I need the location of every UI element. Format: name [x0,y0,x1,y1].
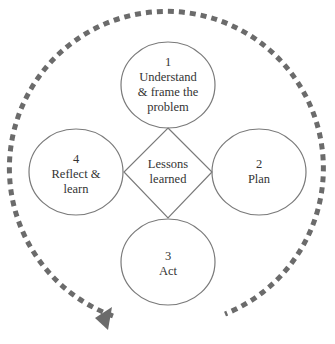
step-4-line-2: learn [36,182,116,197]
step-2-line-1: Plan [219,172,299,187]
step-2-number: 2 [219,157,299,172]
step-3-line-1: Act [128,264,208,279]
step-1-line-3: problem [118,100,218,115]
step-3-label: 3 Act [128,249,208,279]
step-3-number: 3 [128,249,208,264]
center-line-2: learned [133,172,203,187]
step-4-label: 4 Reflect & learn [36,152,116,197]
step-2-label: 2 Plan [219,157,299,187]
step-1-line-2: & frame the [118,85,218,100]
center-label: Lessons learned [133,157,203,187]
step-1-label: 1 Understand & frame the problem [118,55,218,115]
step-1-line-1: Understand [118,70,218,85]
center-line-1: Lessons [133,157,203,172]
step-1-number: 1 [118,55,218,70]
step-4-line-1: Reflect & [36,167,116,182]
step-4-number: 4 [36,152,116,167]
